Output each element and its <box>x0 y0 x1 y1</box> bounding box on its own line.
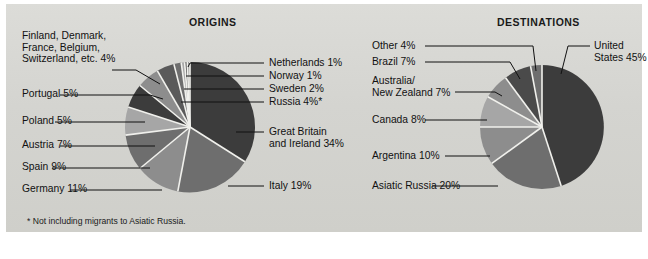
destinations-label-brazil: Brazil 7% <box>372 56 416 68</box>
origins-label-poland: Poland 5% <box>22 115 72 127</box>
origins-label-finland-denmark-france-belgium-switzerland: Finland, Denmark, France, Belgium, Switz… <box>22 30 115 65</box>
origins-label-italy: Italy 19% <box>269 180 311 192</box>
origins-label-germany: Germany 11% <box>22 183 87 195</box>
origins-label-austria: Austria 7% <box>22 139 72 151</box>
origins-label-russia: Russia 4%* <box>269 96 322 108</box>
destinations-label-argentina: Argentina 10% <box>372 150 440 162</box>
origins-label-sweden: Sweden 2% <box>269 83 324 95</box>
destinations-label-asiatic-russia: Asiatic Russia 20% <box>372 180 460 192</box>
destinations-label-australia-new-zealand: Australia/ New Zealand 7% <box>372 75 450 98</box>
figure-root: ORIGINS DESTINATIONS Finland, Denmark, F… <box>0 0 648 259</box>
origins-label-great-britain-ireland: Great Britain and Ireland 34% <box>269 126 344 149</box>
origins-label-netherlands: Netherlands 1% <box>269 57 342 69</box>
destinations-label-united-states: United States 45% <box>594 40 647 63</box>
origins-label-spain: Spain 9% <box>22 161 66 173</box>
destinations-title: DESTINATIONS <box>497 16 580 28</box>
destinations-pie <box>480 65 604 189</box>
origins-pie <box>125 62 255 193</box>
origins-title: ORIGINS <box>189 16 237 28</box>
origins-label-norway: Norway 1% <box>269 70 322 82</box>
destinations-label-other: Other 4% <box>372 40 416 52</box>
origins-label-portugal: Portugal 5% <box>22 88 78 100</box>
destinations-label-canada: Canada 8% <box>372 114 426 126</box>
footnote: * Not including migrants to Asiatic Russ… <box>27 216 186 226</box>
